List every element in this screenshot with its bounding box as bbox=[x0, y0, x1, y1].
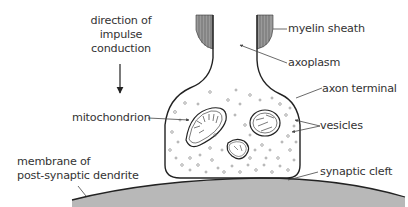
mitochondrion-large bbox=[186, 108, 226, 147]
direction-line-2: impulse bbox=[87, 28, 155, 42]
mitochondrion-label: mitochondrion bbox=[72, 111, 151, 125]
direction-label: direction of impulse conduction bbox=[87, 14, 155, 56]
direction-line-3: conduction bbox=[87, 42, 155, 56]
myelin-sheath-left bbox=[196, 15, 213, 49]
axon-terminal-label: axon terminal bbox=[322, 82, 397, 96]
myelin-sheath-label: myelin sheath bbox=[288, 22, 365, 36]
membrane-line-1: membrane of bbox=[17, 155, 139, 169]
vesicles-label: vesicles bbox=[320, 119, 363, 133]
axoplasm-label: axoplasm bbox=[288, 56, 340, 70]
mitochondrion-round bbox=[250, 110, 280, 136]
synaptic-cleft-label: synaptic cleft bbox=[320, 165, 392, 179]
membrane-line-2: post-synaptic dendrite bbox=[17, 169, 139, 183]
myelin-sheath-right bbox=[257, 15, 273, 49]
direction-line-1: direction of bbox=[87, 14, 155, 28]
membrane-label: membrane of post-synaptic dendrite bbox=[17, 155, 139, 183]
mitochondrion-small bbox=[227, 139, 248, 158]
